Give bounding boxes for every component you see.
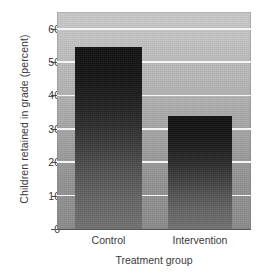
bar-chart-figure: Children retained in grade (percent) 010… xyxy=(0,0,260,275)
x-axis-line xyxy=(51,229,251,230)
y-tick-label: 40 xyxy=(32,90,60,100)
bar-intervention xyxy=(168,116,232,230)
y-tick-label: 20 xyxy=(32,157,60,167)
plot-area xyxy=(57,12,251,229)
y-tick-label: 10 xyxy=(32,191,60,201)
x-axis-title: Treatment group xyxy=(57,254,251,266)
bar-control xyxy=(75,47,142,229)
x-tick-label: Intervention xyxy=(140,234,260,247)
y-tick-label: 60 xyxy=(32,24,60,34)
y-tick-label: 50 xyxy=(32,57,60,67)
y-tick-label: 30 xyxy=(32,124,60,134)
gridline xyxy=(57,28,251,30)
